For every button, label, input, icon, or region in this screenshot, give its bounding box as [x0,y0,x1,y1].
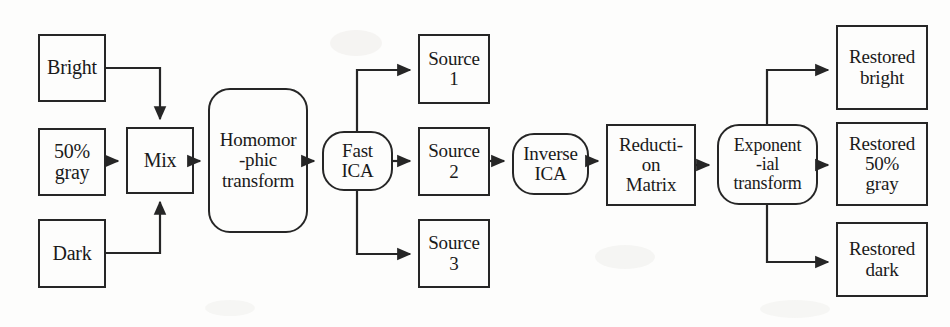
connector-dark-to-mix [106,202,160,253]
connector-exponential-to-bright [767,70,828,124]
node-bright[interactable]: Bright [38,34,106,102]
node-gray50[interactable]: 50% gray [38,128,106,196]
node-label-source2: Source 2 [428,141,480,181]
node-label-bright: Bright [47,57,97,78]
node-restoreddark[interactable]: Restored dark [836,222,928,297]
node-label-restoredbright: Restored bright [849,47,915,87]
node-label-inverseica: Inverse ICA [523,144,578,184]
connector-exponential-to-dark [767,205,828,262]
node-source1[interactable]: Source 1 [418,34,490,104]
node-restoredbright[interactable]: Restored bright [836,25,928,110]
node-mix[interactable]: Mix [126,127,194,194]
node-reduction[interactable]: Reducti- on Matrix [606,124,696,206]
node-label-fastica: Fast ICA [341,141,373,181]
node-label-mix: Mix [144,150,177,171]
node-homomorphic[interactable]: Homomor -phic transform [208,88,308,233]
node-label-homomorphic: Homomor -phic transform [220,130,297,190]
node-fastica[interactable]: Fast ICA [322,131,393,191]
node-source3[interactable]: Source 3 [418,219,490,288]
connector-bright-to-mix [106,68,160,119]
node-label-source3: Source 3 [428,233,480,273]
flowchart-diagram: Bright50% grayDarkMixHomomor -phic trans… [0,0,950,327]
node-dark[interactable]: Dark [38,219,106,288]
node-label-restoreddark: Restored dark [849,239,915,279]
node-label-source1: Source 1 [428,49,480,89]
node-label-exponential: Exponent -ial transform [733,136,801,193]
node-label-restoredgray: Restored 50% gray [849,134,915,194]
node-inverseica[interactable]: Inverse ICA [512,133,589,195]
node-label-reduction: Reducti- on Matrix [619,135,683,195]
connector-fastica-to-source1 [357,70,410,131]
node-exponential[interactable]: Exponent -ial transform [717,124,818,205]
node-restoredgray[interactable]: Restored 50% gray [836,122,928,206]
connector-fastica-to-source3 [357,191,410,254]
node-label-gray50: 50% gray [54,141,90,183]
node-source2[interactable]: Source 2 [418,127,490,196]
node-label-dark: Dark [52,243,91,264]
